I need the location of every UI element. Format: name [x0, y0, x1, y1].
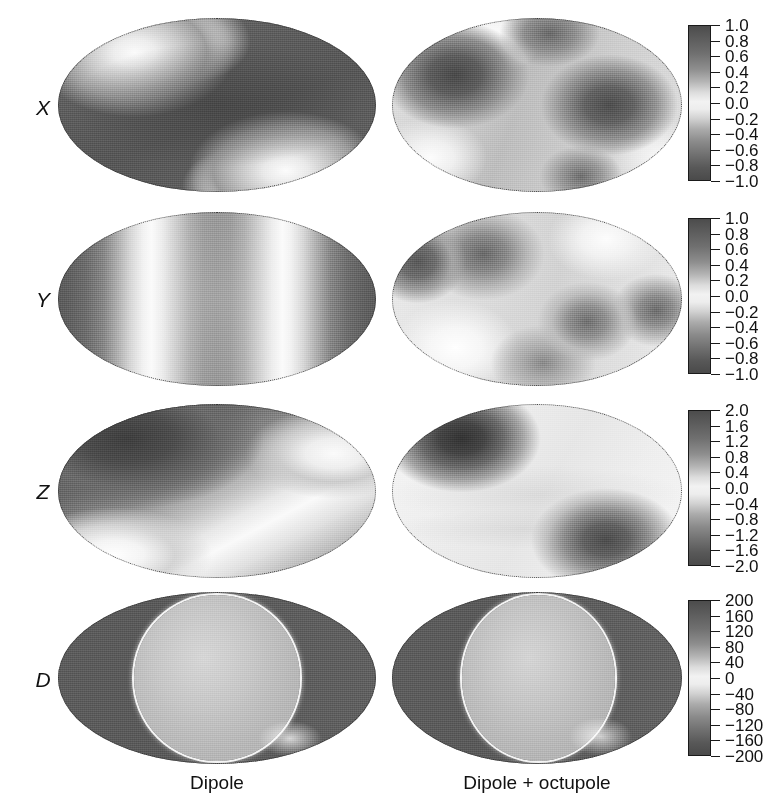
- colorbar-x-gradient: [688, 25, 711, 181]
- colorbar-y-ticks: [711, 218, 723, 374]
- map-d-dipole-octupole: [392, 592, 682, 764]
- map-z-dipole: [58, 404, 376, 578]
- colorbar-z-ticks: [711, 410, 723, 566]
- tick-label: −2.0: [725, 558, 759, 575]
- map-d-dipole: [58, 592, 376, 764]
- column-caption-dipole-octupole: Dipole + octupole: [392, 772, 682, 794]
- tick-label: −1.0: [725, 366, 759, 383]
- column-caption-dipole: Dipole: [58, 772, 376, 794]
- colorbar-z-gradient: [688, 410, 711, 566]
- colorbar-d-ticks: [711, 600, 723, 756]
- colorbar-x-ticks: [711, 25, 723, 181]
- tick-label: −1.0: [725, 173, 759, 190]
- colorbar-y-gradient: [688, 218, 711, 374]
- row-label-d: D: [26, 668, 60, 692]
- tick-label: −200: [725, 748, 763, 765]
- row-label-z: Z: [26, 480, 60, 504]
- map-x-dipole-octupole: [392, 18, 682, 192]
- map-z-dipole-octupole: [392, 404, 682, 578]
- figure-panel-grid: X Y Z D 1.0: [0, 0, 780, 804]
- row-label-x: X: [26, 96, 60, 120]
- map-y-dipole-octupole: [392, 212, 682, 386]
- colorbar-d-gradient: [688, 600, 711, 756]
- map-y-dipole: [58, 212, 376, 386]
- row-label-y: Y: [26, 288, 60, 312]
- map-x-dipole: [58, 18, 376, 192]
